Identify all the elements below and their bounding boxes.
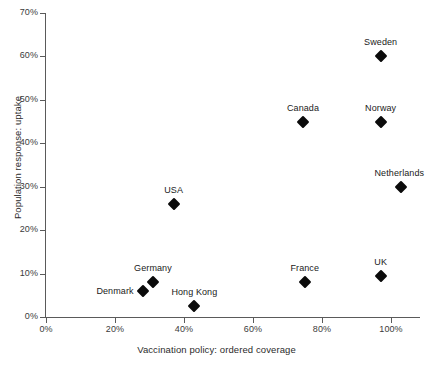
x-tick-mark <box>391 318 392 323</box>
x-tick-label: 80% <box>313 324 331 334</box>
data-point-label: Hong Kong <box>171 287 217 297</box>
x-axis-line <box>45 317 420 318</box>
data-point-label: Denmark <box>0 286 134 296</box>
y-tick-label: 0% <box>25 311 38 321</box>
y-tick-mark <box>40 230 45 231</box>
data-point-label: Canada <box>287 103 319 113</box>
x-tick-label: 40% <box>175 324 193 334</box>
data-point-label: Netherlands <box>375 168 425 178</box>
data-point-marker[interactable] <box>136 285 149 298</box>
data-point-marker[interactable] <box>374 115 387 128</box>
y-axis-line <box>45 13 46 318</box>
data-point-marker[interactable] <box>188 300 201 313</box>
y-tick-mark <box>40 100 45 101</box>
y-tick-mark <box>40 274 45 275</box>
data-point-marker[interactable] <box>298 276 311 289</box>
y-tick-mark <box>40 56 45 57</box>
data-point-label: UK <box>374 257 387 267</box>
x-axis-title: Vaccination policy: ordered coverage <box>0 344 433 355</box>
data-point-label: Germany <box>134 263 172 273</box>
scatter-chart: 0%10%20%30%40%50%60%70% 0%20%40%60%80%10… <box>0 0 433 367</box>
data-point-marker[interactable] <box>297 115 310 128</box>
data-point-label: France <box>290 263 319 273</box>
x-tick-label: 100% <box>379 324 402 334</box>
data-point-marker[interactable] <box>374 50 387 63</box>
data-point-marker[interactable] <box>167 198 180 211</box>
x-tick-mark <box>253 318 254 323</box>
data-point-marker[interactable] <box>395 180 408 193</box>
y-tick-mark <box>40 187 45 188</box>
data-point-label: USA <box>164 185 183 195</box>
x-tick-mark <box>115 318 116 323</box>
y-tick-label: 10% <box>20 268 38 278</box>
x-tick-mark <box>184 318 185 323</box>
x-tick-label: 60% <box>244 324 262 334</box>
data-point-marker[interactable] <box>374 269 387 282</box>
data-point-marker[interactable] <box>147 276 160 289</box>
x-tick-label: 20% <box>106 324 124 334</box>
x-tick-mark <box>322 318 323 323</box>
y-tick-mark <box>40 143 45 144</box>
data-point-label: Sweden <box>364 37 397 47</box>
x-tick-label: 0% <box>39 324 52 334</box>
y-axis-title: Population response: uptake <box>12 53 23 263</box>
y-tick-mark <box>40 317 45 318</box>
x-tick-mark <box>46 318 47 323</box>
data-point-label: Norway <box>365 103 396 113</box>
y-tick-label: 70% <box>20 7 38 17</box>
y-tick-mark <box>40 13 45 14</box>
